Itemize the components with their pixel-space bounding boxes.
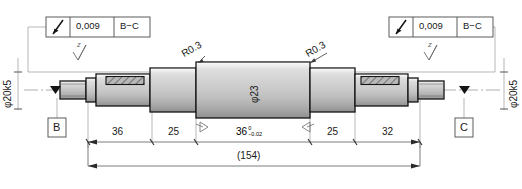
fcf-left-tolerance: 0,009 — [76, 20, 100, 31]
surface-finish-left-label: z — [77, 40, 81, 49]
dimension-value-1: 36 — [112, 126, 123, 137]
diameter-center-label: φ23 — [249, 85, 260, 103]
dimension-value-5: 32 — [382, 126, 393, 137]
overall-dimension-label: (154) — [237, 150, 260, 161]
datum-b-label: B — [53, 121, 60, 133]
fcf-right-tolerance: 0,009 — [419, 20, 443, 31]
datum-c-label: C — [460, 121, 468, 133]
dimension-value-3: 36 — [236, 126, 247, 137]
dimension-3-group: 36 0 −0.02 — [236, 126, 262, 137]
dimension-value-2: 25 — [168, 126, 179, 137]
dimension-3-tol-lower: −0.02 — [248, 132, 262, 138]
surface-finish-right-label: z — [428, 40, 432, 49]
drawing-sheet: 0,009 B−C 0,009 B−C B C φ20k5 φ23 φ20k5 … — [0, 0, 522, 189]
fcf-right-datums: B−C — [463, 20, 482, 31]
dimension-value-4: 25 — [327, 126, 338, 137]
diameter-left-label: φ20k5 — [2, 80, 13, 108]
diameter-right-label: φ20k5 — [508, 80, 519, 108]
fcf-left-datums: B−C — [120, 20, 139, 31]
